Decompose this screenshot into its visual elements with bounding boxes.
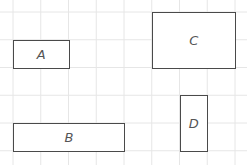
rectangle-c-label: C bbox=[189, 33, 198, 48]
rectangle-d: D bbox=[180, 95, 209, 152]
rectangle-a: A bbox=[13, 40, 70, 69]
rectangle-b-label: B bbox=[65, 130, 74, 145]
rectangle-d-label: D bbox=[189, 116, 199, 131]
rectangle-c: C bbox=[152, 12, 236, 69]
rectangle-b: B bbox=[13, 123, 125, 152]
rectangle-a-label: A bbox=[37, 47, 46, 62]
